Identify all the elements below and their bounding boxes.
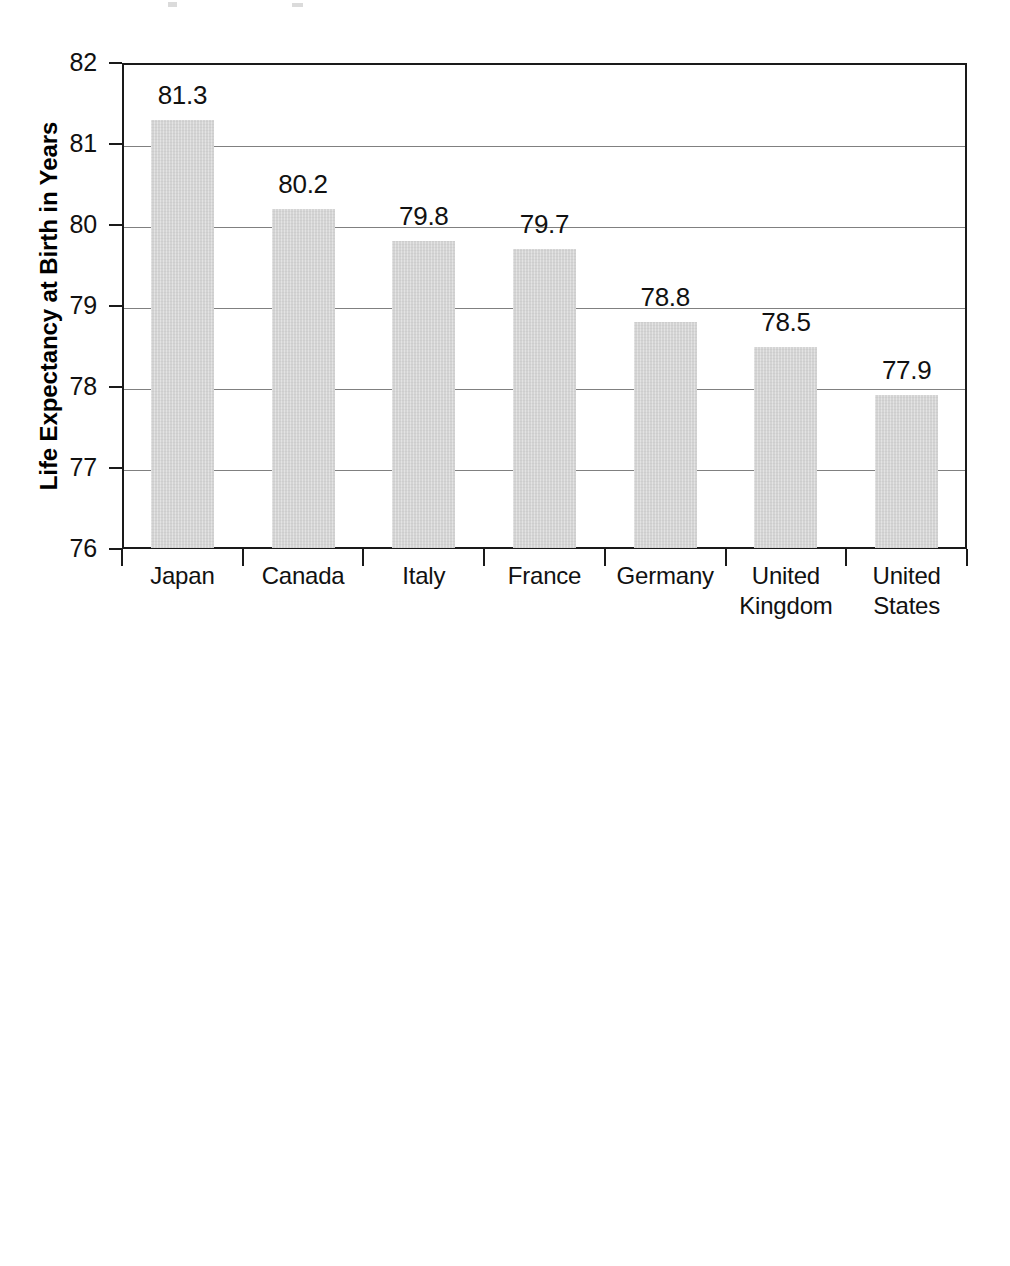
y-axis-tick [109, 143, 122, 145]
y-axis-tick [109, 467, 122, 469]
x-axis-category-label-line: States [827, 591, 987, 621]
life-expectancy-chart: Life Expectancy at Birth in Years 828180… [0, 0, 1010, 640]
infant-mortality-chart: Infant Mortality Rate (deathsunder 1 yea… [0, 640, 1010, 1266]
bar-value-label: 78.8 [595, 284, 735, 310]
scan-artifact [168, 2, 177, 7]
gridline [124, 146, 965, 147]
x-axis-category-label-line: United [827, 561, 987, 591]
bar [151, 120, 214, 548]
bar-value-label: 81.3 [112, 82, 252, 108]
bar-value-label: 79.7 [475, 211, 615, 237]
bar [634, 322, 697, 548]
x-axis-category-label: UnitedStates [827, 561, 987, 621]
y-axis-tick-label: 81 [2, 131, 97, 156]
x-axis-tick [121, 549, 123, 566]
scan-artifact [292, 3, 303, 7]
y-axis-tick-label: 77 [2, 455, 97, 480]
bar-value-label: 77.9 [837, 357, 977, 383]
bar [754, 347, 817, 549]
x-axis-tick [966, 549, 968, 566]
bar-value-label: 79.8 [354, 203, 494, 229]
bar [513, 249, 576, 548]
y-axis-tick-label: 76 [2, 536, 97, 561]
y-axis-tick-label: 79 [2, 293, 97, 318]
y-axis-tick-label: 82 [2, 50, 97, 75]
y-axis-tick [109, 386, 122, 388]
y-axis-tick-label: 78 [2, 374, 97, 399]
y-axis-tick-label: 80 [2, 212, 97, 237]
bar [392, 241, 455, 548]
bar [875, 395, 938, 548]
y-axis-tick [109, 224, 122, 226]
y-axis-tick [109, 305, 122, 307]
bar [272, 209, 335, 548]
y-axis-tick [109, 62, 122, 64]
bar-value-label: 78.5 [716, 309, 856, 335]
bar-value-label: 80.2 [233, 171, 373, 197]
